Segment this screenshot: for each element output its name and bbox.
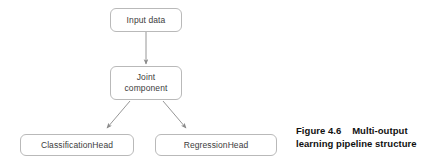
node-input-data[interactable]: Input data — [110, 8, 182, 32]
node-joint-component[interactable]: Joint component — [110, 66, 182, 100]
figure-caption-line-1: Figure 4.6 Multi-output — [296, 124, 432, 137]
figure-caption-line-2: learning pipeline structure — [296, 137, 432, 150]
node-classification-head[interactable]: ClassificationHead — [20, 134, 134, 156]
figure-diagram: Input data Joint component Classificatio… — [0, 0, 435, 164]
edge-joint-to-regression — [163, 101, 186, 128]
edge-joint-to-classification — [107, 101, 130, 128]
node-regression-head[interactable]: RegressionHead — [155, 134, 277, 156]
figure-caption: Figure 4.6 Multi-output learning pipelin… — [296, 124, 432, 150]
